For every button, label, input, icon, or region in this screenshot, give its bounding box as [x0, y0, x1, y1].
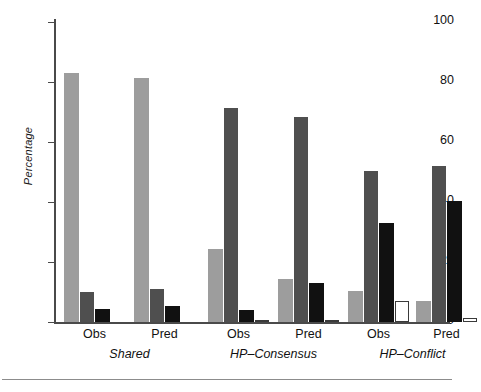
x-axis-group-label: HP–Conflict	[323, 347, 481, 361]
bar	[325, 320, 340, 322]
bar	[208, 249, 223, 323]
bar	[395, 301, 410, 322]
bar	[64, 73, 79, 322]
plot-area	[56, 22, 450, 322]
x-axis-tick-label: Obs	[55, 327, 135, 341]
bar	[255, 320, 270, 322]
bar-group	[416, 22, 477, 322]
bar	[379, 223, 394, 322]
bar-group	[208, 22, 269, 322]
bar	[239, 310, 254, 322]
bar	[416, 301, 431, 322]
x-axis-tick-label: Pred	[407, 327, 481, 341]
bar-group	[348, 22, 409, 322]
x-axis-tick-label: Obs	[199, 327, 279, 341]
bar	[348, 291, 363, 323]
bar	[309, 283, 324, 322]
bar	[150, 289, 165, 322]
bar-group	[64, 22, 125, 322]
bar	[134, 78, 149, 323]
bar	[278, 279, 293, 323]
x-axis-tick-label: Pred	[125, 327, 205, 341]
x-axis-line	[54, 322, 450, 324]
bar	[447, 201, 462, 323]
bar-group	[134, 22, 195, 322]
bar-group	[278, 22, 339, 322]
bar	[80, 292, 95, 322]
bar	[294, 117, 309, 323]
x-axis-tick-label: Pred	[269, 327, 349, 341]
bar	[364, 171, 379, 323]
footer-divider	[2, 379, 452, 380]
bar	[463, 318, 478, 322]
bar	[432, 166, 447, 322]
y-axis-title: Percentage	[22, 106, 34, 206]
bar	[95, 309, 110, 323]
bar	[165, 306, 180, 323]
bar	[224, 108, 239, 323]
